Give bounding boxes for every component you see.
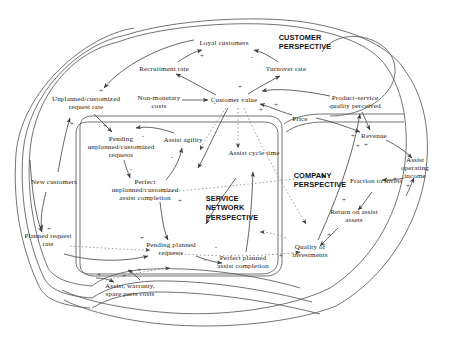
- node-loyal-customers: Loyal customers: [199, 39, 248, 47]
- polarity-mark: -: [171, 153, 173, 161]
- polarity-mark: +: [351, 132, 355, 140]
- node-perfect-unplanned-customized-assist-completion: Perfect unplanned/customized assist comp…: [112, 178, 179, 203]
- node-customer-value: Customer value: [211, 96, 258, 104]
- polarity-mark: +: [393, 175, 397, 183]
- causal-loop-diagram: CUSTOMER PERSPECTIVE SERVICE NETWORK PER…: [0, 0, 456, 337]
- polarity-mark: +: [406, 182, 410, 190]
- diagram-canvas: [0, 0, 456, 337]
- polarity-mark: +: [364, 141, 368, 149]
- node-pending-planned-requests: Pending planned requests: [146, 241, 196, 257]
- perspective-label-customer: CUSTOMER PERSPECTIVE: [279, 33, 332, 52]
- polarity-mark: +: [47, 225, 51, 233]
- link-perfectu-pendingp: [160, 202, 168, 240]
- link-planned-pending: [64, 254, 148, 260]
- polarity-mark: +: [279, 252, 283, 260]
- node-quality-of-investments: Quality of investments: [292, 243, 327, 259]
- polarity-mark: +: [200, 52, 204, 60]
- link-turnover-loyal: [254, 50, 278, 62]
- polarity-mark: -: [214, 99, 216, 107]
- node-assist-warranty-spare-parts-costs: Assist, warranty, spare parts costs: [105, 282, 155, 298]
- polarity-mark: +: [327, 231, 331, 239]
- polarity-mark: +: [342, 196, 346, 204]
- link-new-planned: [41, 192, 46, 230]
- dotted-value-agility: [200, 108, 226, 150]
- node-recruitment-rate: Recruitment rate: [139, 65, 189, 73]
- link-value-turnover: [248, 76, 280, 94]
- perspective-label-service-network: SERVICE NETWORK PERSPECTIVE: [206, 194, 259, 222]
- polarity-mark: +: [99, 87, 103, 95]
- polarity-mark: -: [251, 53, 253, 61]
- node-assist-cycle-time: Assist cycle time: [229, 149, 280, 157]
- node-product-service-quality-perceived: Product-service quality perceived: [329, 94, 380, 110]
- polarity-mark: +: [122, 272, 126, 280]
- polarity-mark: +: [103, 122, 107, 130]
- polarity-mark: +: [356, 142, 360, 150]
- polarity-mark: +: [259, 106, 263, 114]
- node-new-customers: New customers: [31, 178, 77, 186]
- polarity-mark: -: [204, 256, 206, 264]
- node-non-monetary-costs: Non-monetary costs: [137, 94, 180, 110]
- polarity-mark: +: [140, 234, 144, 242]
- loop-envelopes: [15, 19, 427, 326]
- node-assist-agility: Assist agility: [163, 136, 202, 144]
- node-unplanned-customized-request-rate: Unplanned/customized request rate: [52, 95, 120, 111]
- node-price: Price: [292, 115, 307, 123]
- polarity-mark: -: [142, 132, 144, 140]
- link-value-recruitment: [176, 74, 216, 95]
- link-quality-value: [262, 90, 330, 96]
- link-loop-planned: [30, 160, 42, 232]
- node-revenue: Revenue: [361, 132, 387, 140]
- link-recruitment-loyal: [178, 50, 202, 62]
- node-turnover-rate: Turnover rate: [266, 65, 306, 73]
- link-price-revenue: [316, 118, 360, 132]
- node-pending-unplanned-customized-requests: Pending unplanned/customized requests: [88, 135, 155, 160]
- polarity-mark: -: [215, 243, 217, 251]
- polarity-mark: +: [97, 271, 101, 279]
- polarity-mark: +: [137, 266, 141, 274]
- node-return-on-assist-assets: Return on assist assets: [330, 208, 378, 224]
- causal-links: [30, 40, 414, 282]
- perspective-label-company: COMPANY PERSPECTIVE: [294, 171, 347, 190]
- polarity-mark: +: [274, 101, 278, 109]
- polarity-mark: +: [70, 120, 74, 128]
- node-planned-request-rate: Planned request rate: [24, 232, 71, 248]
- link-perfectu-agility: [166, 148, 182, 180]
- dotted-planned-pending: [70, 246, 150, 250]
- node-perfect-planned-assist-completion: Perfect planned assist completion: [217, 254, 268, 270]
- link-product-revenue: [362, 112, 370, 130]
- polarity-mark: +: [178, 197, 182, 205]
- polarity-mark: +: [238, 83, 242, 91]
- polarity-mark: -: [130, 165, 132, 173]
- link-new-unplanned: [58, 118, 70, 172]
